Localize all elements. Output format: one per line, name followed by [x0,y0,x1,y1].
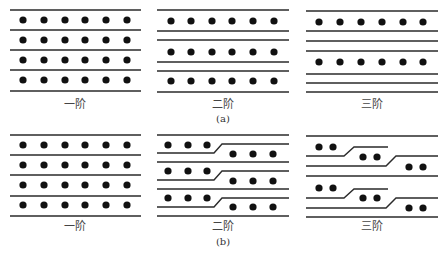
panel-b2: 二阶 (b) [157,135,289,247]
layer-diagram: 一阶 二阶 (a) 三阶 [0,0,445,255]
panel-label: 二阶 [212,219,234,233]
caption-a: (a) [216,113,230,124]
panel-b1: 一阶 [10,135,141,233]
panel-label: 三阶 [361,97,383,111]
dot-grid [315,18,426,65]
caption-b: (b) [216,236,230,247]
panel-b3: 三阶 [306,136,438,233]
dot-grid [167,17,277,84]
dot-grid [315,143,426,211]
panel-a3: 三阶 [306,11,438,111]
panel-label: 三阶 [361,219,383,233]
panel-label: 一阶 [64,219,86,233]
panel-label: 一阶 [64,97,86,111]
panel-a1: 一阶 [10,10,141,111]
panel-label: 二阶 [212,97,234,111]
panel-a2: 二阶 (a) [157,10,289,124]
